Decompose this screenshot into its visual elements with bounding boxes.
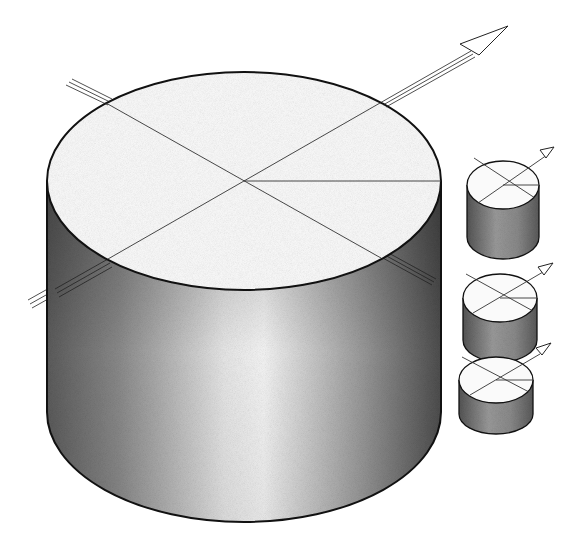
large-axis-arrow-icon [380,26,508,107]
large-axis-upper-left-icon [66,79,112,105]
small-axis-arrow-1-icon [540,147,554,158]
large-cylinder [28,26,508,522]
small-cylinder-1 [467,147,554,259]
small-axis-arrow-3-icon [536,343,551,355]
cylinders-illustration [0,0,581,550]
